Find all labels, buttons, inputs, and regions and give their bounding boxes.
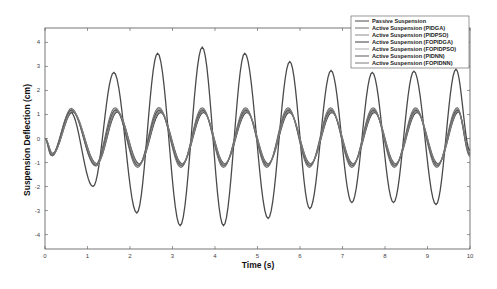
y-tick-label: -3 [35, 208, 41, 214]
legend-label: Active Suspension (FOPIDPSO) [372, 46, 456, 52]
y-tick-label: 1 [37, 111, 41, 117]
x-tick-label: 9 [426, 253, 430, 259]
x-tick-label: 10 [467, 253, 474, 259]
x-tick-label: 4 [213, 253, 217, 259]
y-tick-label: -4 [35, 232, 41, 238]
x-tick-label: 0 [43, 253, 47, 259]
y-tick-label: -1 [35, 160, 41, 166]
x-tick-label: 1 [86, 253, 90, 259]
x-tick-label: 7 [341, 253, 345, 259]
y-tick-label: 3 [37, 63, 41, 69]
x-tick-label: 8 [383, 253, 387, 259]
y-tick-label: 2 [37, 87, 41, 93]
x-tick-label: 5 [256, 253, 260, 259]
legend-label: Active Suspension (PIDNN) [372, 53, 445, 59]
x-tick-label: 2 [128, 253, 132, 259]
legend-label: Active Suspension (PIDPSO) [372, 32, 449, 38]
legend-label: Active Suspension (FOPIDNN) [372, 60, 453, 66]
legend: Passive SuspensionActive Suspension (PID… [351, 16, 469, 68]
x-tick-label: 3 [171, 253, 175, 259]
y-axis-label: Suspension Deflection (cm) [22, 84, 32, 196]
y-tick-label: -2 [35, 184, 41, 190]
y-tick-label: 4 [37, 39, 41, 45]
x-axis-label: Time (s) [242, 260, 275, 270]
legend-label: Active Suspension (FOPIDGA) [372, 39, 453, 45]
chart: 012345678910-4-3-2-101234 Time (s) Suspe… [0, 0, 497, 289]
y-tick-label: 0 [37, 136, 41, 142]
x-tick-label: 6 [298, 253, 302, 259]
legend-label: Passive Suspension [372, 18, 427, 24]
legend-label: Active Suspension (PIDGA) [372, 25, 445, 31]
